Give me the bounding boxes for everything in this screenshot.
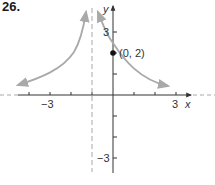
curve-left-branch: [18, 12, 86, 85]
point-label: (0, 2): [119, 47, 145, 59]
x-tick-label-neg3: −3: [41, 98, 54, 110]
graph: (0, 2) y x −3 3 3 −3: [0, 0, 215, 185]
x-tick-label-3: 3: [172, 98, 178, 110]
y-axis-label: y: [102, 3, 110, 15]
x-axis-label: x: [184, 98, 191, 110]
y-tick-label-neg3: −3: [97, 152, 110, 164]
y-tick-label-3: 3: [103, 26, 109, 38]
point-0-2: [110, 50, 116, 56]
